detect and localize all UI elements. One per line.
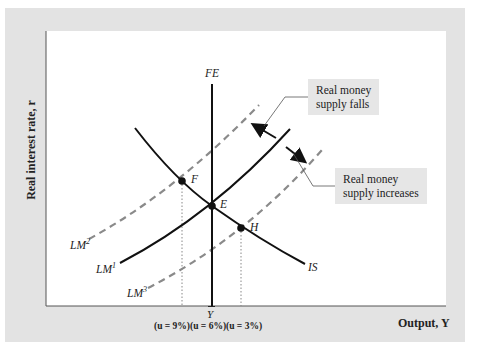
lm1-text: LM	[96, 263, 112, 275]
fe-label: FE	[205, 67, 219, 79]
x-axis-label: Output, Y	[398, 316, 450, 331]
leader-falls	[264, 97, 308, 126]
note-increases-line2: supply increases	[343, 186, 419, 200]
y-bar-tick: Y	[207, 308, 213, 320]
unemployment-labels: (u = 9%)(u = 6%)(u = 3%)	[154, 321, 262, 331]
lm2-text: LM	[70, 239, 86, 251]
lm1-sup: 1	[112, 261, 116, 270]
f-label: F	[191, 173, 198, 185]
arrow-increases	[286, 147, 304, 161]
lm3-label: LM3	[127, 285, 147, 299]
note-increases-line1: Real money	[343, 172, 419, 186]
lm3-text: LM	[127, 287, 143, 299]
note-falls-line2: supply falls	[316, 97, 371, 111]
lm1-label: LM1	[96, 261, 116, 275]
note-money-increases: Real money supply increases	[335, 168, 427, 204]
lm3-curve	[148, 150, 322, 288]
note-falls-line1: Real money	[316, 83, 371, 97]
note-money-falls: Real money supply falls	[308, 79, 379, 115]
h-label: H	[250, 221, 258, 233]
is-label: IS	[308, 261, 318, 273]
lm2-label: LM2	[70, 237, 90, 251]
lm1-curve	[120, 129, 290, 263]
y-bar-overline	[208, 306, 215, 307]
y-axis-label: Real interest rate, r	[24, 100, 39, 200]
e-label: E	[220, 198, 227, 210]
lm2-sup: 2	[86, 237, 90, 246]
point-e	[208, 202, 216, 210]
lm3-sup: 3	[143, 285, 147, 294]
point-h	[237, 224, 245, 232]
point-f	[178, 177, 186, 185]
arrow-falls	[254, 125, 276, 138]
